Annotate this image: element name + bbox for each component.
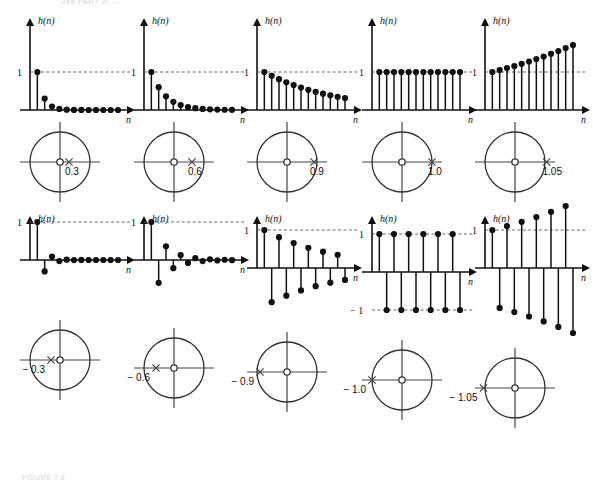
z-plane-unit-circle: 0.6: [134, 122, 214, 202]
stem-point: [78, 257, 84, 263]
panel-a-0p3: h(n)n10.3: [8, 14, 128, 210]
stem-point: [34, 219, 40, 225]
stem-point: [71, 107, 77, 113]
stem-point: [298, 84, 304, 90]
stem-point: [497, 305, 503, 311]
stem-point: [442, 69, 448, 75]
tick-label-one: 1: [472, 225, 477, 236]
stem-point: [56, 106, 62, 112]
stem-point: [49, 103, 55, 109]
tick-label-neg-one: − 1: [350, 305, 363, 316]
stem-point: [269, 73, 275, 79]
stem-point: [335, 94, 341, 100]
stem-point: [207, 256, 213, 262]
panel-a-neg1: h(n)n1− 1− 1.0: [350, 212, 470, 408]
stem-point: [163, 243, 169, 249]
stem-point: [398, 307, 404, 313]
stem-point: [49, 253, 55, 259]
z-plane-unit-circle: 0.3: [20, 122, 100, 202]
stem-point: [526, 58, 532, 64]
stem-point: [442, 307, 448, 313]
stem-point: [305, 245, 311, 251]
stem-point: [170, 99, 176, 105]
stem-point: [313, 283, 319, 289]
page-header: 266 PART 2/ ...: [62, 0, 119, 5]
stem-point: [207, 106, 213, 112]
figure-page: 266 PART 2/ ... h(n)n10.3h(n)n10.6h(n)n1…: [0, 0, 593, 490]
tick-label-one: 1: [17, 67, 22, 78]
z-plane-unit-circle: 0.9: [247, 122, 327, 202]
stem-point: [298, 287, 304, 293]
stem-point: [511, 309, 517, 315]
pole-value-label: 0.3: [65, 166, 79, 177]
stem-point: [222, 257, 228, 263]
stem-point: [548, 209, 554, 215]
stem-point: [115, 107, 121, 113]
stem-point: [384, 69, 390, 75]
stem-point: [435, 69, 441, 75]
stem-point: [192, 255, 198, 261]
stem-point: [435, 231, 441, 237]
stem-point: [156, 280, 162, 286]
stem-point: [214, 107, 220, 113]
stem-point: [413, 69, 419, 75]
stem-point: [86, 107, 92, 113]
y-axis-label: h(n): [265, 213, 282, 225]
stem-point: [108, 257, 114, 263]
stem-point: [384, 307, 390, 313]
stem-point: [163, 93, 169, 99]
stem-point: [526, 313, 532, 319]
stem-point: [185, 260, 191, 266]
tick-label-one: 1: [359, 67, 364, 78]
stem-point: [376, 231, 382, 237]
x-axis-label: n: [581, 272, 586, 283]
stem-point: [555, 324, 561, 330]
stem-point: [406, 69, 412, 75]
tick-label-one: 1: [131, 67, 136, 78]
stem-point: [450, 231, 456, 237]
y-axis-label: h(n): [38, 15, 55, 27]
pole-value-label: − 1.05: [449, 392, 478, 403]
stem-point: [335, 252, 341, 258]
pole-value-label: 1.05: [543, 166, 563, 177]
y-axis-label: h(n): [265, 15, 282, 27]
stem-point: [200, 258, 206, 264]
stem-point: [327, 92, 333, 98]
stem-point: [497, 67, 503, 73]
pole-value-label: 0.6: [188, 166, 202, 177]
stem-point: [170, 265, 176, 271]
stem-point: [376, 69, 382, 75]
stem-point: [504, 65, 510, 71]
stem-point: [283, 293, 289, 299]
stem-point: [541, 53, 547, 59]
stem-point: [283, 79, 289, 85]
stem-point: [148, 69, 154, 75]
stem-point: [178, 102, 184, 108]
stem-point: [214, 257, 220, 263]
tick-label-one: 1: [244, 225, 249, 236]
stem-point: [42, 268, 48, 274]
stem-point: [56, 258, 62, 264]
stem-point: [489, 227, 495, 233]
stem-point: [291, 240, 297, 246]
stem-point: [428, 307, 434, 313]
y-axis-label: h(n): [493, 15, 510, 27]
stem-point: [548, 51, 554, 57]
stem-point: [34, 69, 40, 75]
stem-point: [185, 104, 191, 110]
pole-value-label: 1.0: [428, 166, 442, 177]
z-plane-unit-circle: − 0.3: [20, 320, 100, 400]
y-axis-label: h(n): [152, 15, 169, 27]
stem-point: [100, 107, 106, 113]
panel-a-0p6: h(n)n10.6: [122, 14, 242, 210]
stem-point: [533, 214, 539, 220]
stem-point: [78, 107, 84, 113]
stem-point: [93, 107, 99, 113]
stem-point: [420, 69, 426, 75]
pole-value-label: − 0.6: [127, 372, 150, 383]
y-axis-label: h(n): [380, 213, 397, 225]
stem-point: [108, 107, 114, 113]
stem-point: [563, 203, 569, 209]
stem-point: [450, 69, 456, 75]
stem-point: [519, 61, 525, 67]
